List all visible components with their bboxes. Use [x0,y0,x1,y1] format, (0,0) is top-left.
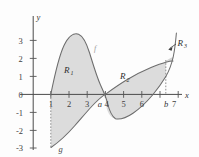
x-tick-label-3: 3 [85,99,89,109]
y-tick-label-0: 0 [18,90,22,100]
curve-label-f: f [94,44,98,53]
region-label-r3-sub: 3 [183,43,187,49]
x-tick-label-a: a [98,99,102,109]
curve-label-g: g [59,144,63,154]
region-label-r2-sub: 2 [127,77,130,83]
x-tick-label-2: 2 [67,99,71,109]
region-shade-r1 [51,34,107,148]
x-axis-label: x [184,90,189,100]
region-shade-r2 [106,62,166,119]
y-tick-label-3: 3 [18,36,22,46]
x-tick-label-1: 1 [49,99,53,109]
region-label-r1-sub: 1 [71,70,74,76]
region-label-r2: R 2 [119,71,130,83]
region-label-r3: R 3 [177,38,188,50]
y-tick-label-neg3: -3 [16,143,23,153]
x-tick-label-5: 5 [121,99,125,109]
region-label-r3-base: R [177,38,184,48]
y-axis-label: y [36,12,41,22]
y-tick-label-1: 1 [18,72,22,82]
y-tick-label-2: 2 [18,54,22,64]
y-tick-label-neg2: -2 [16,126,23,136]
region-plot-svg: y x 3 2 1 0 -1 -2 -3 1 2 3 a 4 5 6 b 7 f… [0,0,199,157]
y-tick-label-neg1: -1 [16,108,23,118]
x-tick-label-4: 4 [104,99,109,109]
x-tick-label-6: 6 [140,99,144,109]
region-label-r2-base: R [119,71,126,81]
x-tick-label-7: 7 [172,99,176,109]
region-label-r1-base: R [63,65,70,75]
x-tick-label-b: b [164,99,168,109]
figure-container: y x 3 2 1 0 -1 -2 -3 1 2 3 a 4 5 6 b 7 f… [0,0,199,157]
